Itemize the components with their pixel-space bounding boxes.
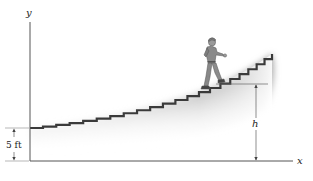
walking-person-icon xyxy=(201,38,227,89)
arrow-down-icon xyxy=(12,157,15,161)
x-axis-label: x xyxy=(297,155,303,166)
ground-shading xyxy=(30,54,274,151)
height-label: h xyxy=(252,118,258,129)
y-axis-label: y xyxy=(25,7,32,18)
arrow-up-icon xyxy=(12,129,15,133)
base-height-dimension: 5 ft xyxy=(5,128,29,161)
arrow-down-icon xyxy=(254,157,257,161)
base-height-label: 5 ft xyxy=(6,140,22,150)
diagram-canvas: y x 5 ft h xyxy=(0,0,313,181)
